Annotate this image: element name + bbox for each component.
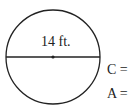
circumference-label: C = [107,63,128,77]
area-label: A = [107,87,128,101]
center-point [51,55,54,58]
diameter-label: 14 ft. [41,35,71,49]
